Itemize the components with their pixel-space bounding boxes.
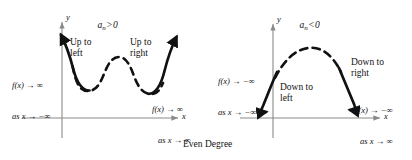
condition-value-negative: 0 [315, 20, 320, 30]
end-behavior-right-text-left-panel: Up to right [130, 37, 151, 58]
limit-right-line2-right-panel: as x → ∞ [360, 137, 393, 147]
end-behavior-left-text-right-panel: Down to left [280, 82, 313, 103]
y-axis-label-left-panel: y [66, 13, 70, 23]
condition-label-negative: an<0 [290, 9, 320, 43]
end-behavior-right-text-right-panel: Down to right [351, 57, 384, 78]
limit-left-line1-right-panel: f(x) → −∞ [218, 77, 256, 87]
end-behavior-right-label-left-panel: Up to right [130, 37, 151, 58]
limit-left-label-left-panel: f(x) → ∞ as x → −∞ [12, 62, 50, 141]
condition-operator-negative: < [308, 20, 315, 30]
end-behavior-left-label-right-panel: Down to left [280, 82, 313, 103]
limit-left-label-right-panel: f(x) → −∞ as x → −∞ [218, 58, 256, 137]
limit-left-line2-left-panel: as x → −∞ [12, 112, 50, 122]
end-behavior-left-text-left-panel: Up to left [70, 37, 91, 58]
limit-left-line2-right-panel: as x → −∞ [218, 108, 256, 118]
condition-operator-positive: > [106, 20, 113, 30]
limit-right-line1-left-panel: f(x) → ∞ [152, 105, 191, 115]
condition-label-positive: an>0 [88, 9, 118, 43]
figure-caption: Even Degree [183, 139, 232, 149]
curve-dashed-top-right-panel [275, 48, 341, 78]
y-axis-label-right-panel: y [277, 15, 281, 25]
limit-right-label-right-panel: f(x) → −∞ as x → ∞ [356, 87, 393, 160]
limit-left-line1-left-panel: f(x) → ∞ [12, 81, 50, 91]
figure-canvas [0, 0, 412, 160]
end-behavior-right-label-right-panel: Down to right [351, 57, 384, 78]
even-degree-end-behavior-figure: an>0 y x Up to left Up to right f(x) → ∞… [0, 0, 412, 160]
condition-value-positive: 0 [113, 20, 118, 30]
end-behavior-left-label-left-panel: Up to left [70, 37, 91, 58]
limit-right-line1-right-panel: f(x) → −∞ [356, 106, 393, 116]
curve-left-branch-right-panel [261, 72, 277, 112]
